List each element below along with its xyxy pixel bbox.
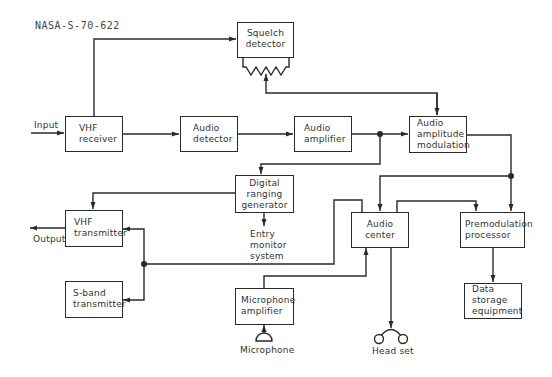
microphone-amplifier-block: Microphone amplifier [235, 288, 294, 325]
block-label: detector [238, 39, 293, 50]
s-band-transmitter-block: S-band transmitter [65, 281, 123, 318]
audio-amplitude-modulation-block: Audio amplitude modulation [409, 116, 467, 153]
digital-ranging-generator-block: Digital ranging generator [235, 175, 294, 213]
input-label: Input [34, 120, 58, 131]
squelch-detector-block: Squelch detector [237, 22, 294, 58]
microphone-icon [256, 333, 272, 342]
block-label: VHF [74, 217, 122, 228]
data-storage-equipment-block: Data storage equipment [464, 283, 522, 319]
block-label: Data [472, 284, 521, 295]
entry-monitor-system-label: Entry monitor system [250, 229, 287, 262]
block-label: VHF [79, 123, 122, 134]
block-label: processor [465, 230, 524, 241]
block-label: Digital [236, 178, 293, 189]
block-label: generator [236, 200, 293, 211]
block-label: Squelch [238, 28, 293, 39]
block-label: Audio [417, 118, 466, 129]
block-label: transmitter [74, 228, 122, 239]
block-label: ranging [236, 189, 293, 200]
audio-detector-block: Audio detector [180, 116, 238, 152]
block-label: Audio [352, 219, 408, 230]
output-label: Output [33, 234, 65, 245]
audio-center-block: Audio center [351, 212, 409, 248]
block-label: Premodulation [465, 219, 524, 230]
block-label: Audio [304, 123, 351, 134]
block-label: transmitter [73, 299, 122, 310]
figure-id: NASA-S-70-622 [35, 20, 120, 31]
block-label: amplitude [417, 129, 466, 140]
vhf-receiver-block: VHF receiver [65, 116, 123, 152]
vhf-transmitter-block: VHF transmitter [65, 210, 123, 247]
label-line: monitor [250, 240, 287, 251]
label-line: system [250, 251, 287, 262]
block-label: receiver [79, 134, 122, 145]
audio-amplifier-block: Audio amplifier [294, 116, 352, 152]
microphone-label: Microphone [240, 345, 294, 356]
block-label: storage [472, 295, 521, 306]
block-label: center [352, 230, 408, 241]
block-label: modulation [417, 140, 466, 151]
headset-label: Head set [372, 346, 414, 357]
block-label: amplifier [241, 306, 293, 317]
block-label: Microphone [241, 295, 293, 306]
block-label: amplifier [304, 134, 351, 145]
block-label: Audio [193, 123, 237, 134]
headset-icon [374, 328, 408, 344]
block-label: S-band [73, 288, 122, 299]
premodulation-processor-block: Premodulation processor [460, 212, 525, 248]
label-line: Entry [250, 229, 287, 240]
block-label: detector [193, 134, 237, 145]
block-label: equipment [472, 306, 521, 317]
communications-block-diagram: NASA-S-70-622 Squelch detector VHF recei… [0, 0, 552, 377]
